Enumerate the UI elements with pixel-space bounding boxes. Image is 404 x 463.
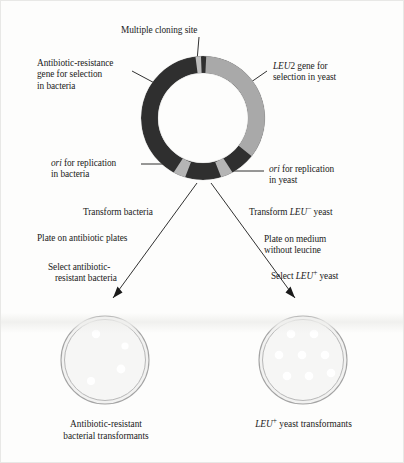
caption-bacteria-line1: Antibiotic-resistant [21, 419, 191, 431]
caption-yeast-line1: LEU+ yeast transformants [216, 419, 391, 431]
bacterial-transformant-dish [61, 316, 149, 404]
caption-bacterial-transformants: Antibiotic-resistant bacterial transform… [21, 419, 191, 442]
colony [121, 342, 128, 349]
caption-yeast-rest: yeast transformants [277, 419, 352, 429]
colony [321, 351, 330, 360]
colony [283, 372, 292, 381]
shuttle-vector-figure: Multiple cloning site Antibiotic-resista… [0, 0, 404, 463]
colony [87, 377, 95, 385]
petri-dishes [1, 1, 404, 463]
colony [298, 351, 307, 360]
colony [117, 365, 126, 374]
colony [305, 372, 314, 381]
colony [275, 351, 284, 360]
caption-yeast-transformants: LEU+ yeast transformants [216, 419, 391, 431]
colony [310, 330, 319, 339]
caption-leu-italic: LEU [255, 419, 273, 429]
yeast-transformant-dish [259, 316, 347, 404]
colony [92, 330, 100, 338]
caption-bacteria-line2: bacterial transformants [21, 431, 191, 443]
colony [327, 369, 336, 378]
colony [287, 330, 296, 339]
